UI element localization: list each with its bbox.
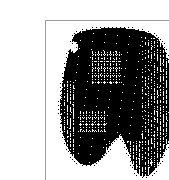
halftone-raster-canvas — [46, 21, 169, 180]
figure-alt-text: Halftoned black-and-white scanned silhou… — [0, 0, 1, 1]
figure-frame — [45, 20, 169, 180]
page-root: Halftoned black-and-white scanned silhou… — [0, 0, 169, 180]
figure-plate — [46, 21, 169, 180]
